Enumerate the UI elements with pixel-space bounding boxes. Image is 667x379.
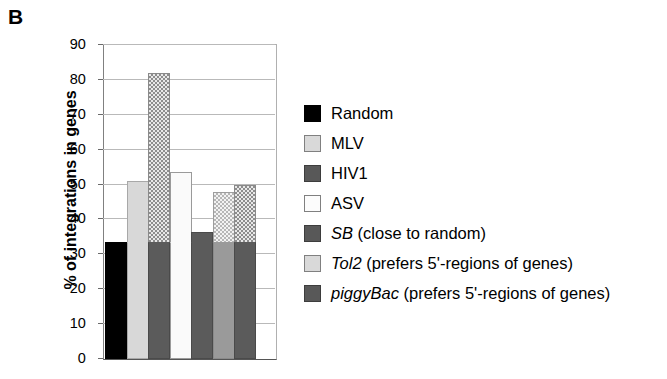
legend-item-random: Random xyxy=(304,98,610,128)
y-axis-tick-label: 0 xyxy=(52,351,86,366)
y-axis-tick-label: 20 xyxy=(52,281,86,296)
tick-mark xyxy=(98,253,103,254)
legend-swatch-icon xyxy=(304,105,321,122)
bar-base-mlv xyxy=(127,242,149,359)
legend-swatch-icon xyxy=(304,285,321,302)
tick-mark xyxy=(98,358,103,359)
y-axis-tick-label: 80 xyxy=(52,72,86,87)
legend-item-label: piggyBac (prefers 5'-regions of genes) xyxy=(331,285,610,302)
legend-swatch-icon xyxy=(304,165,321,182)
tick-mark xyxy=(98,184,103,185)
legend-swatch-icon xyxy=(304,195,321,212)
tick-mark xyxy=(98,114,103,115)
legend-swatch-icon xyxy=(304,225,321,242)
tick-mark xyxy=(98,218,103,219)
bar-base-piggybac xyxy=(234,242,256,359)
legend-swatch-icon xyxy=(304,255,321,272)
y-axis-tick-label: 40 xyxy=(52,211,86,226)
tick-mark xyxy=(98,79,103,80)
chart-legend: RandomMLVHIV1ASVSB (close to random)Tol2… xyxy=(304,98,610,308)
bar-base-tol2 xyxy=(213,242,235,359)
y-axis-tick-label: 50 xyxy=(52,176,86,191)
legend-item-label: MLV xyxy=(331,135,364,152)
legend-item-label: HIV1 xyxy=(331,165,368,182)
legend-item-label: Tol2 (prefers 5'-regions of genes) xyxy=(331,255,573,272)
bar-base-asv xyxy=(170,242,192,359)
legend-item-label: ASV xyxy=(331,195,364,212)
legend-item-sb: SB (close to random) xyxy=(304,218,610,248)
y-axis-tick-label: 60 xyxy=(52,141,86,156)
legend-item-tol2: Tol2 (prefers 5'-regions of genes) xyxy=(304,248,610,278)
bar-base-random xyxy=(105,242,127,359)
legend-item-piggybac: piggyBac (prefers 5'-regions of genes) xyxy=(304,278,610,308)
tick-mark xyxy=(98,323,103,324)
bar-base-sb xyxy=(191,242,213,359)
y-axis-tick-label: 30 xyxy=(52,246,86,261)
legend-swatch-icon xyxy=(304,135,321,152)
y-axis-tick-label: 70 xyxy=(52,107,86,122)
tick-mark xyxy=(98,44,103,45)
y-axis-tick-label: 90 xyxy=(52,37,86,52)
chart-plot-wrapper: 9080706050403020100 xyxy=(103,44,275,359)
chart-bars xyxy=(104,45,276,359)
legend-item-label: SB (close to random) xyxy=(331,225,486,242)
legend-item-asv: ASV xyxy=(304,188,610,218)
legend-item-mlv: MLV xyxy=(304,128,610,158)
legend-item-hiv1: HIV1 xyxy=(304,158,610,188)
panel-label: B xyxy=(8,6,23,27)
tick-mark xyxy=(98,288,103,289)
tick-mark xyxy=(98,149,103,150)
legend-item-label: Random xyxy=(331,105,393,122)
bar-base-hiv1 xyxy=(148,242,170,359)
y-axis-tick-label: 10 xyxy=(52,316,86,331)
